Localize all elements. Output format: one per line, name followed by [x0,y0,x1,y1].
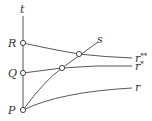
label-R: R [7,37,16,50]
diagram: t R Q P s r** r* r [0,0,152,121]
point-Q [20,70,25,75]
point-P [20,107,25,112]
intersection-s-rstar [59,65,64,70]
label-s: s [97,33,103,46]
label-r: r [135,81,141,94]
curve-r [23,88,132,110]
point-R [20,40,25,45]
label-r-star: r* [135,60,144,73]
t-axis-label: t [20,3,25,16]
curve-r-star [23,66,132,73]
intersection-s-rdoublestar [76,51,81,56]
label-P: P [7,104,16,117]
label-Q: Q [8,67,17,80]
curve-s [23,42,98,110]
